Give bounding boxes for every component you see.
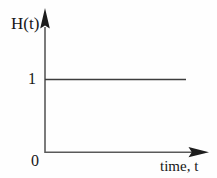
y-tick-label-1: 1	[28, 71, 36, 87]
x-axis-label: time, t	[160, 159, 198, 174]
y-axis-label: H(t)	[11, 15, 39, 32]
origin-label: 0	[31, 153, 39, 169]
heaviside-step-function-figure: H(t) 1 0 time, t	[0, 0, 217, 178]
y-axis-arrowhead-icon	[40, 8, 50, 29]
